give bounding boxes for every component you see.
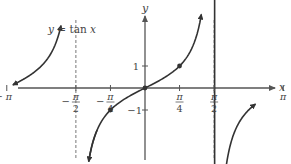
data-point — [177, 64, 182, 69]
svg-text:−: − — [0, 91, 3, 102]
x-tick-label: π4 — [175, 91, 183, 114]
x-axis-label: x — [279, 81, 286, 94]
svg-text:π: π — [210, 91, 218, 102]
tan-branch-start-arrow — [13, 83, 17, 85]
svg-text:2: 2 — [211, 103, 217, 114]
svg-text:π: π — [5, 91, 13, 102]
svg-text:−: − — [96, 96, 104, 107]
x-tick-label: π2 — [210, 91, 218, 114]
data-point — [108, 108, 113, 113]
svg-text:−: − — [61, 96, 69, 107]
svg-text:π: π — [175, 91, 183, 102]
svg-text:π: π — [72, 91, 80, 102]
svg-text:π: π — [106, 91, 114, 102]
y-tick-label: 1 — [133, 61, 139, 72]
function-label: y = tan x — [47, 23, 96, 35]
data-point — [143, 86, 148, 91]
svg-text:2: 2 — [73, 103, 79, 114]
tan-branch-start-arrow — [89, 130, 97, 162]
tan-branch — [207, 0, 255, 164]
svg-text:4: 4 — [177, 103, 183, 114]
y-axis-label: y — [141, 2, 149, 15]
tan-graph: 3π2−π−π2−π4−π4π2π3π21−1 y = tan x x y — [0, 0, 291, 164]
y-tick-label: −1 — [127, 105, 142, 116]
x-tick-label: π2− — [61, 91, 79, 114]
x-tick-label: π− — [0, 91, 13, 102]
